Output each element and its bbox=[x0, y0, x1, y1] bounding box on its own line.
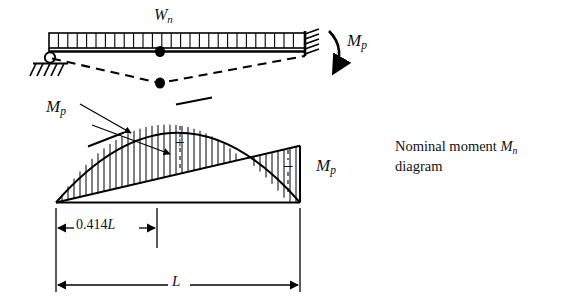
right-plastic-moment-label: Mp bbox=[316, 157, 336, 177]
tangent-mark-peak bbox=[176, 98, 212, 105]
distributed-load-block bbox=[49, 33, 305, 48]
beam-assembly bbox=[30, 29, 339, 89]
left-plastic-moment-label: Mp bbox=[46, 98, 66, 118]
collapse-mechanism-dashed bbox=[52, 56, 305, 83]
dimension-label-0414L: 0.414L bbox=[76, 218, 115, 232]
distributed-load-label: Wn bbox=[154, 7, 173, 25]
fixed-support bbox=[305, 29, 319, 56]
support-moment-arrow bbox=[329, 31, 339, 72]
nominal-moment-figure: Wn Mp Mp Mp 0.414L L Nominal moment Mndi… bbox=[0, 0, 584, 308]
pin-support bbox=[30, 52, 68, 76]
dimension-label-L: L bbox=[172, 274, 180, 289]
moment-chord-line bbox=[56, 146, 300, 203]
support-moment-label: Mp bbox=[347, 32, 367, 52]
plastic-hinge-dot-beam bbox=[155, 46, 165, 57]
figure-caption: Nominal moment Mndiagram bbox=[395, 137, 575, 177]
positive-sign-label: + bbox=[175, 134, 185, 151]
negative-sign-label: – bbox=[284, 156, 293, 173]
